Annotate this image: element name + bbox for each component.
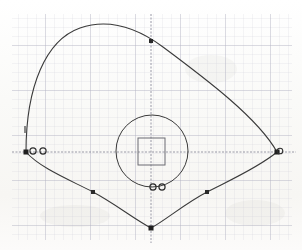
scanned-figure-page: [0, 0, 302, 250]
marker-top: [149, 39, 153, 43]
marker-lower-left: [91, 190, 95, 194]
figure-canvas: [0, 0, 302, 250]
marker-left-vertex: [24, 150, 29, 155]
marker-lower-right: [205, 190, 209, 194]
major-gridlines: [12, 14, 292, 240]
graph-paper-grid: [12, 14, 292, 240]
marker-bottom-vertex: [149, 226, 154, 231]
